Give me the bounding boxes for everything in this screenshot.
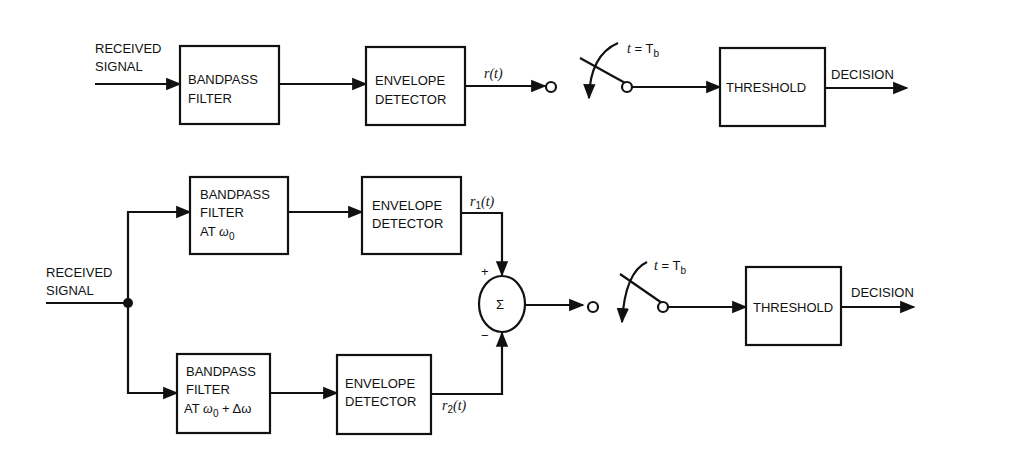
top-switch-label: t = Tb — [627, 41, 659, 59]
top-bandpass-filter-block: BANDPASS FILTER — [180, 46, 279, 124]
top-input-label-line1: RECEIVED — [95, 41, 161, 56]
top-switch-contact-input — [546, 82, 556, 92]
plus-sign: + — [481, 264, 489, 279]
r2-label: r2(t) — [442, 398, 467, 415]
sigma-symbol: Σ — [496, 297, 504, 312]
lower-envelope-line2: DETECTOR — [345, 394, 416, 409]
bottom-envelope-upper-block: ENVELOPE DETECTOR — [362, 177, 461, 254]
upper-envelope-line2: DETECTOR — [372, 216, 443, 231]
top-input-label-line2: SIGNAL — [95, 59, 143, 74]
lower-bandpass-line2: FILTER — [186, 382, 230, 397]
minus-sign: − — [481, 328, 489, 343]
bottom-switch-label: t = Tb — [654, 258, 686, 276]
top-envelope-detector-block: ENVELOPE DETECTOR — [366, 47, 465, 125]
top-switch-arm — [580, 58, 627, 84]
bottom-threshold-label: THRESHOLD — [753, 300, 833, 315]
bottom-bandpass-lower-block: BANDPASS FILTER AT ω0 + Δω — [177, 354, 270, 433]
top-signal-label: r(t) — [484, 66, 503, 82]
top-threshold-label: THRESHOLD — [726, 80, 806, 95]
bottom-split-upper-arrow — [128, 212, 190, 303]
lower-envelope-line1: ENVELOPE — [345, 376, 415, 391]
bottom-switch-contact-input — [588, 302, 598, 312]
bottom-split-lower-arrow — [128, 303, 177, 393]
bottom-diagram: RECEIVED SIGNAL BANDPASS FILTER AT ω0 EN… — [46, 177, 914, 434]
bottom-threshold-block: THRESHOLD — [746, 267, 841, 345]
r2-to-summer-arrow — [431, 333, 502, 394]
bottom-sampling-switch: t = Tb — [620, 258, 686, 322]
bottom-switch-arc-arrow — [622, 262, 647, 322]
r1-label: r1(t) — [470, 194, 495, 211]
summing-junction: Σ + − — [479, 264, 525, 343]
upper-envelope-line1: ENVELOPE — [372, 198, 442, 213]
lower-bandpass-line1: BANDPASS — [186, 364, 256, 379]
bottom-bandpass-upper-block: BANDPASS FILTER AT ω0 — [190, 177, 288, 254]
top-output-label: DECISION — [831, 67, 894, 82]
bottom-envelope-lower-block: ENVELOPE DETECTOR — [337, 355, 431, 434]
bottom-input-label-line1: RECEIVED — [46, 265, 112, 280]
top-threshold-block: THRESHOLD — [720, 48, 825, 126]
top-switch-contact-output — [622, 82, 632, 92]
bottom-input-label-line2: SIGNAL — [46, 283, 94, 298]
bottom-output-label: DECISION — [851, 285, 914, 300]
top-bandpass-line1: BANDPASS — [188, 72, 258, 87]
upper-bandpass-line1: BANDPASS — [200, 187, 270, 202]
top-bandpass-line2: FILTER — [188, 91, 232, 106]
top-sampling-switch: t = Tb — [580, 41, 659, 98]
top-envelope-line1: ENVELOPE — [375, 73, 445, 88]
top-diagram: RECEIVED SIGNAL BANDPASS FILTER ENVELOPE… — [95, 41, 907, 126]
top-envelope-line2: DETECTOR — [375, 92, 446, 107]
upper-bandpass-line2: FILTER — [200, 205, 244, 220]
bottom-switch-contact-output — [658, 302, 668, 312]
